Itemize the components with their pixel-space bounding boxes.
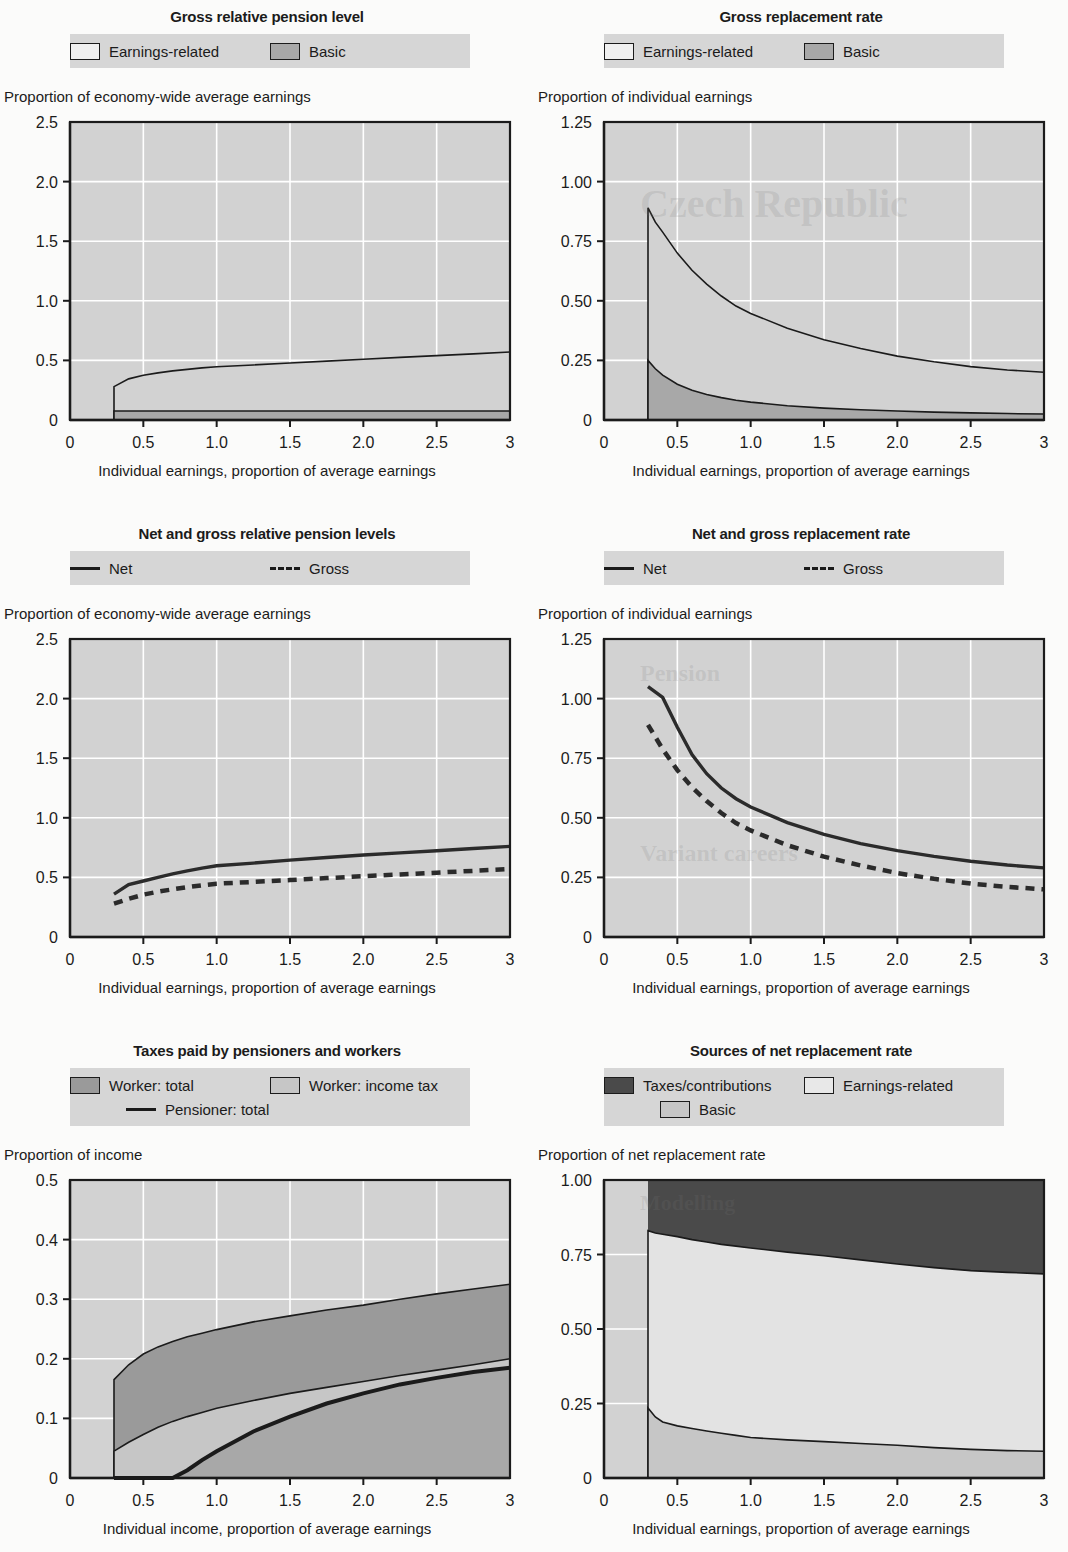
x-tick-label: 3 (1040, 1492, 1049, 1509)
x-tick-label: 2.0 (886, 1492, 908, 1509)
chart-plot: 0.50.40.30.20.1000.51.01.52.02.53 (0, 1034, 534, 1512)
x-tick-label: 2.0 (886, 951, 908, 968)
chart-plot: 2.52.01.51.00.5000.51.01.52.02.53 (0, 0, 534, 454)
y-tick-label: 0.50 (561, 1321, 592, 1338)
x-axis-caption: Individual earnings, proportion of avera… (0, 979, 534, 996)
x-tick-label: 2.0 (352, 434, 374, 451)
x-tick-label: 1.5 (279, 1492, 301, 1509)
y-tick-label: 0 (583, 412, 592, 429)
y-tick-label: 0 (583, 929, 592, 946)
x-tick-label: 2.5 (426, 434, 448, 451)
x-tick-label: 3 (506, 434, 515, 451)
y-tick-label: 0 (583, 1470, 592, 1487)
y-tick-label: 0.5 (36, 352, 58, 369)
x-axis-caption: Individual income, proportion of average… (0, 1520, 534, 1537)
x-axis-caption: Individual earnings, proportion of avera… (0, 462, 534, 479)
chart-plot: 1.000.750.500.25000.51.01.52.02.53 (534, 1034, 1068, 1512)
y-tick-label: 0.50 (561, 810, 592, 827)
x-tick-label: 3 (1040, 951, 1049, 968)
y-tick-label: 0.75 (561, 1247, 592, 1264)
x-tick-label: 0 (66, 951, 75, 968)
y-tick-label: 0.5 (36, 869, 58, 886)
x-tick-label: 3 (506, 951, 515, 968)
y-tick-label: 0.25 (561, 352, 592, 369)
y-tick-label: 0 (49, 929, 58, 946)
y-tick-label: 0 (49, 1470, 58, 1487)
charts-grid: Gross relative pension levelEarnings-rel… (0, 0, 1068, 1552)
x-tick-label: 1.0 (740, 434, 762, 451)
x-tick-label: 0.5 (132, 434, 154, 451)
y-tick-label: 1.5 (36, 750, 58, 767)
x-tick-label: 3 (1040, 434, 1049, 451)
x-axis-caption: Individual earnings, proportion of avera… (534, 462, 1068, 479)
y-tick-label: 1.25 (561, 114, 592, 131)
x-tick-label: 1.0 (740, 1492, 762, 1509)
x-tick-label: 1.5 (813, 1492, 835, 1509)
y-tick-label: 1.0 (36, 810, 58, 827)
x-tick-label: 2.5 (960, 1492, 982, 1509)
x-tick-label: 0.5 (666, 951, 688, 968)
x-tick-label: 0 (66, 434, 75, 451)
y-tick-label: 0.75 (561, 750, 592, 767)
x-tick-label: 0.5 (666, 434, 688, 451)
y-tick-label: 0.2 (36, 1351, 58, 1368)
y-tick-label: 0 (49, 412, 58, 429)
x-tick-label: 0.5 (132, 951, 154, 968)
y-tick-label: 1.0 (36, 293, 58, 310)
chart-panel-sources-of-net-replacement-rate: Sources of net replacement rateTaxes/con… (534, 1034, 1068, 1552)
x-tick-label: 0.5 (666, 1492, 688, 1509)
y-tick-label: 0.3 (36, 1291, 58, 1308)
y-tick-label: 2.0 (36, 174, 58, 191)
x-tick-label: 3 (506, 1492, 515, 1509)
y-tick-label: 2.0 (36, 691, 58, 708)
x-tick-label: 2.0 (352, 951, 374, 968)
x-axis-caption: Individual earnings, proportion of avera… (534, 1520, 1068, 1537)
y-tick-label: 0.5 (36, 1172, 58, 1189)
x-tick-label: 0 (600, 434, 609, 451)
x-tick-label: 1.5 (813, 951, 835, 968)
x-tick-label: 2.5 (960, 434, 982, 451)
y-tick-label: 1.25 (561, 631, 592, 648)
x-tick-label: 1.0 (206, 1492, 228, 1509)
x-tick-label: 2.5 (426, 951, 448, 968)
x-tick-label: 2.5 (426, 1492, 448, 1509)
y-tick-label: 0.1 (36, 1410, 58, 1427)
x-tick-label: 1.0 (206, 434, 228, 451)
x-tick-label: 1.5 (279, 951, 301, 968)
chart-plot: 1.251.000.750.500.25000.51.01.52.02.53 (534, 0, 1068, 454)
y-tick-label: 0.4 (36, 1232, 58, 1249)
x-tick-label: 1.0 (206, 951, 228, 968)
chart-panel-gross-relative-pension-level: Gross relative pension levelEarnings-rel… (0, 0, 534, 517)
x-tick-label: 1.5 (813, 434, 835, 451)
x-tick-label: 0 (600, 1492, 609, 1509)
y-tick-label: 0.25 (561, 1396, 592, 1413)
x-tick-label: 1.5 (279, 434, 301, 451)
x-tick-label: 0 (600, 951, 609, 968)
x-tick-label: 2.0 (886, 434, 908, 451)
x-tick-label: 2.0 (352, 1492, 374, 1509)
y-tick-label: 1.5 (36, 233, 58, 250)
y-tick-label: 0.75 (561, 233, 592, 250)
y-tick-label: 1.00 (561, 174, 592, 191)
y-tick-label: 2.5 (36, 114, 58, 131)
chart-plot: 2.52.01.51.00.5000.51.01.52.02.53 (0, 517, 534, 971)
chart-panel-net-and-gross-relative-pension-levels: Net and gross relative pension levelsNet… (0, 517, 534, 1034)
x-tick-label: 2.5 (960, 951, 982, 968)
y-tick-label: 1.00 (561, 1172, 592, 1189)
y-tick-label: 2.5 (36, 631, 58, 648)
x-tick-label: 1.0 (740, 951, 762, 968)
chart-panel-net-and-gross-replacement-rate: Net and gross replacement rateNetGrossPr… (534, 517, 1068, 1034)
chart-panel-taxes-paid-by-pensioners-and-workers: Taxes paid by pensioners and workersWork… (0, 1034, 534, 1552)
x-tick-label: 0.5 (132, 1492, 154, 1509)
chart-panel-gross-replacement-rate: Gross replacement rateEarnings-relatedBa… (534, 0, 1068, 517)
y-tick-label: 0.50 (561, 293, 592, 310)
y-tick-label: 0.25 (561, 869, 592, 886)
x-axis-caption: Individual earnings, proportion of avera… (534, 979, 1068, 996)
chart-plot: 1.251.000.750.500.25000.51.01.52.02.53 (534, 517, 1068, 971)
x-tick-label: 0 (66, 1492, 75, 1509)
y-tick-label: 1.00 (561, 691, 592, 708)
